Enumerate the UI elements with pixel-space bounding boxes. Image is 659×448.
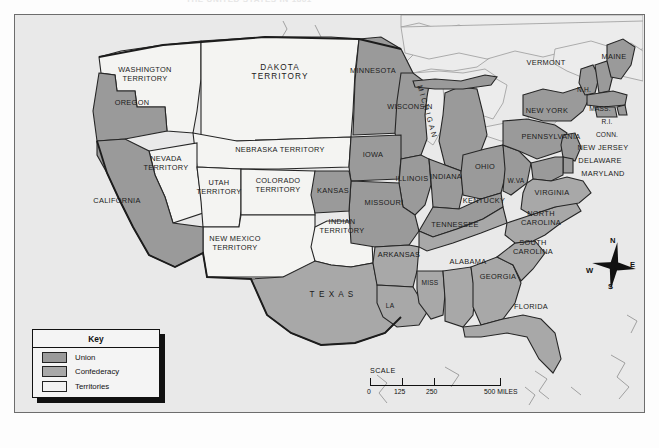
key-label-confederacy: Confederacy [75,367,119,376]
compass-label-north: N [610,236,615,245]
key-title: Key [33,330,159,348]
key-box: Key Union Confederacy Territories [32,329,160,398]
compass-rose: N E S W [588,238,640,294]
key-row-confederacy: Confederacy [42,366,159,377]
compass-label-south: S [608,282,613,291]
scale-title: SCALE [370,366,530,375]
map-page: THE UNITED STATES IN 1861 .u{fill:#9a9a9… [0,0,659,448]
scale-bar [370,378,501,387]
key-swatch-union [42,352,67,363]
region-dakota-territory [201,37,359,143]
compass-label-west: W [586,266,593,275]
scale-axis [370,385,501,386]
cut-off-heading: THE UNITED STATES IN 1861 [0,0,659,9]
scale-numbers: 0 125 250 500 MILES [367,388,537,398]
region-florida [463,315,561,373]
region-colorado-territory [241,169,315,215]
scale-num-0: 0 [367,388,371,395]
region-connecticut [595,107,617,117]
scale-tick-0 [370,378,371,386]
region-ohio [461,145,507,199]
key-rows: Union Confederacy Territories [33,348,159,392]
scale-tick-125 [402,378,403,386]
key-row-union: Union [42,352,159,363]
scale-tick-250 [434,378,435,386]
region-kansas [311,171,351,213]
key-label-union: Union [75,353,95,362]
region-iowa [349,135,401,181]
scale-num-250: 250 [426,388,437,395]
compass-label-east: E [630,260,635,269]
region-rhode-island [617,105,627,115]
key-swatch-territories [42,381,67,392]
region-arkansas [373,245,419,287]
region-utah-territory [197,167,241,227]
scale-tick-500 [500,378,501,386]
scale-num-500: 500 MILES [484,388,518,395]
region-new-york [523,87,591,121]
key-label-territories: Territories [75,382,109,391]
region-delaware [563,157,573,173]
scale-bar-group: SCALE 0 125 250 500 MILES [370,366,530,400]
key-row-territories: Territories [42,381,159,392]
region-alabama [443,267,475,327]
key-swatch-confederacy [42,366,67,377]
region-illinois [399,155,431,215]
region-maryland [531,157,563,181]
cut-off-heading-text: THE UNITED STATES IN 1861 [186,0,312,4]
scale-num-125: 125 [394,388,405,395]
